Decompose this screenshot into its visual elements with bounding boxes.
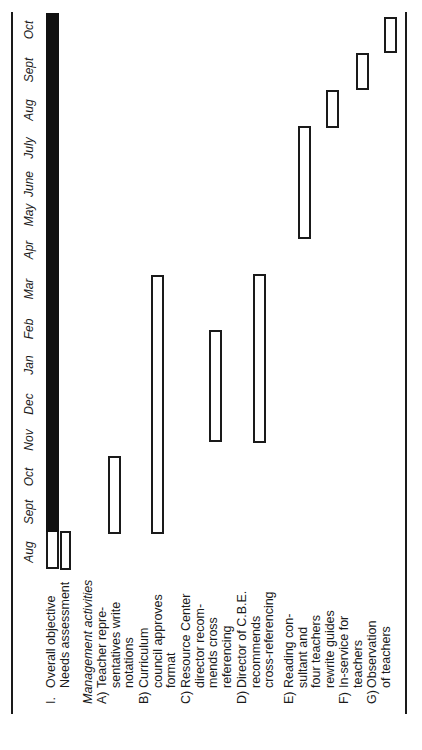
heading-management-activities: Management activities [82,580,96,704]
label-activity-d: D)Director of C.B.E. recommends cross-re… [236,591,277,704]
label-text: notations [122,637,136,704]
month-label: Oct [22,21,36,40]
month-label: Nov [22,429,36,450]
label-text: recommends [249,616,263,704]
bar-overall-objective-solid [46,13,59,532]
label-text: of teachers [379,626,393,704]
month-label: Oct [22,468,36,487]
month-label: May [22,204,36,227]
label-overall-objective: I.Overall objective Needs assessment [45,582,72,704]
label-activity-f: F)In-service for teachers [338,616,365,704]
top-rule [11,12,13,714]
month-label: July [22,137,36,158]
label-text: referencing [220,625,234,704]
bar-activity-a [108,456,121,534]
label-activity-c: C)Resource Center director recom- mends … [180,594,234,705]
bar-activity-e-2 [326,90,339,128]
label-activity-a: A)Teacher repre- sentatives write notati… [96,602,137,704]
label-activity-g: G)Observation of teachers [366,621,393,704]
label-prefix: F) [338,688,352,704]
label-text: cross-referencing [262,591,276,704]
bar-activity-e-1 [298,126,311,239]
label-text: Reading con- [282,614,296,688]
label-text: In-service for [337,616,351,688]
bar-activity-c [209,330,222,442]
label-text: Overall objective [44,596,58,688]
label-prefix: E) [283,688,297,704]
label-text: four teachers [309,615,323,704]
month-label: Sept [22,58,36,83]
month-label: Dec [22,393,36,414]
label-prefix: B) [138,688,152,704]
label-text: Observation [365,621,379,688]
label-prefix: D) [236,688,250,704]
month-label: Apr [22,241,36,260]
label-text: Resource Center [179,594,193,689]
bar-needs-assessment [60,531,71,570]
month-label: Mar [22,279,36,300]
gantt-chart: Aug Sept Oct Nov Dec Jan Feb Mar Apr May… [0,0,422,750]
label-text: Curriculum [137,628,151,688]
bar-activity-f [356,53,369,90]
label-text: council approves [151,594,165,704]
label-text: mends cross [206,617,220,704]
month-label: Aug [22,99,36,120]
month-label: Feb [22,319,36,340]
bar-activity-g [384,17,397,53]
label-text: director recom- [193,604,207,704]
label-text: sultant and [296,627,310,704]
label-text: Teacher repre- [95,607,109,688]
label-text: format [164,653,178,704]
bar-overall-objective-outline [46,530,59,569]
bar-activity-b [151,275,164,534]
bar-activity-d [253,274,266,443]
label-text: teachers [351,640,365,704]
label-needs-assessment: Needs assessment [58,582,72,704]
label-prefix: A) [96,688,110,704]
month-label: Jan [22,355,36,374]
label-prefix: G) [366,688,380,704]
month-label: June [22,171,36,197]
month-label: Aug [22,541,36,562]
label-text: rewrite guides [323,610,337,704]
month-label: Sept [22,500,36,525]
label-text: sentatives write [109,602,123,704]
label-prefix: I. [45,688,59,704]
label-activity-b: B)Curriculum council approves format [138,594,179,704]
label-activity-e: E)Reading con- sultant and four teachers… [283,610,337,704]
bottom-rule [405,12,407,714]
label-prefix: C) [180,688,194,704]
label-text: Director of C.B.E. [235,591,249,688]
